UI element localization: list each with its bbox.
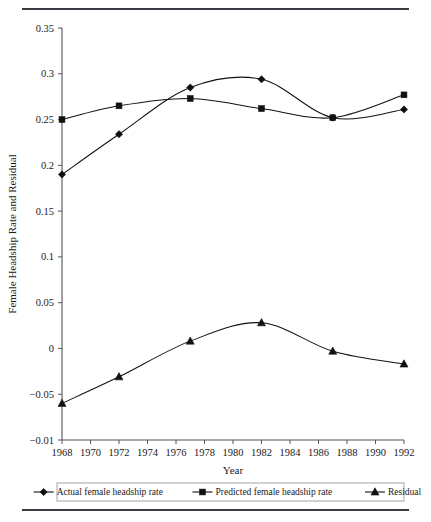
legend-label-0: Actual female headship rate (57, 487, 163, 497)
chart-figure: 0.350.30.250.20.150.10.050−0.05−0.011968… (0, 14, 431, 506)
x-tick-label: 1990 (365, 447, 386, 458)
series-marker-0 (400, 106, 407, 113)
x-tick-label: 1984 (280, 447, 302, 458)
series-line-0 (62, 77, 404, 174)
y-tick-label: 0 (49, 343, 54, 354)
series-marker-2 (115, 373, 123, 380)
y-tick-label: 0.05 (36, 297, 54, 308)
x-tick-label: 1972 (109, 447, 130, 458)
series-marker-0 (187, 84, 194, 91)
x-tick-label: 1982 (251, 447, 272, 458)
y-tick-label: 0.3 (41, 68, 54, 79)
legend-label-2: Residual (388, 487, 422, 497)
series-marker-0 (115, 131, 122, 138)
x-tick-label: 1988 (337, 447, 358, 458)
y-tick-label: −0.01 (30, 435, 54, 446)
legend-marker-2 (371, 488, 379, 495)
series-marker-2 (58, 399, 66, 406)
y-tick-label: 0.1 (41, 251, 54, 262)
legend-marker-0 (40, 488, 47, 495)
series-marker-1 (330, 115, 336, 121)
line-chart: 0.350.30.250.20.150.10.050−0.05−0.011968… (0, 14, 431, 506)
y-tick-label: 0.15 (36, 206, 54, 217)
x-tick-label: 1980 (223, 447, 244, 458)
x-tick-label: 1976 (166, 447, 187, 458)
series-marker-1 (187, 96, 193, 102)
x-tick-label: 1978 (194, 447, 215, 458)
series-line-2 (62, 323, 404, 404)
y-tick-label: 0.35 (36, 23, 54, 34)
legend-label-1: Predicted female headship rate (215, 487, 332, 497)
x-tick-label: 1992 (394, 447, 415, 458)
series-marker-0 (258, 76, 265, 83)
bottom-horizontal-rule (22, 509, 409, 511)
x-tick-label: 1968 (52, 447, 73, 458)
series-marker-1 (116, 103, 122, 109)
x-tick-label: 1974 (137, 447, 159, 458)
series-line-1 (62, 95, 404, 120)
x-axis-title: Year (223, 464, 244, 476)
x-tick-label: 1986 (308, 447, 329, 458)
series-marker-1 (59, 117, 65, 123)
top-horizontal-rule (22, 8, 409, 10)
legend-marker-1 (200, 489, 206, 495)
y-tick-label: −0.05 (30, 389, 54, 400)
series-marker-1 (401, 92, 407, 98)
y-axis-title: Female Headship Rate and Residual (6, 154, 18, 313)
y-tick-label: 0.2 (41, 160, 54, 171)
y-tick-label: 0.25 (36, 114, 54, 125)
x-tick-label: 1970 (80, 447, 101, 458)
series-marker-0 (58, 171, 65, 178)
series-marker-1 (259, 106, 265, 112)
